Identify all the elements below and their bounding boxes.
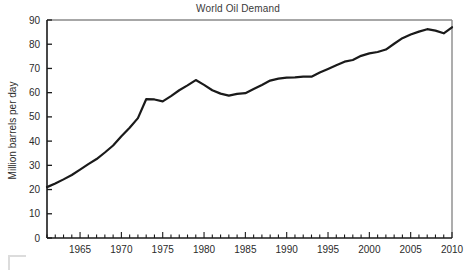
chart-container: World Oil Demand Million barrels per day… — [0, 0, 476, 274]
data-series — [47, 27, 452, 187]
y-tick-label: 60 — [29, 87, 41, 98]
x-tick-label: 1985 — [234, 244, 257, 255]
x-tick-label: 1970 — [110, 244, 133, 255]
y-tick-label: 90 — [29, 15, 41, 26]
y-tick-label: 40 — [29, 136, 41, 147]
y-tick-label: 70 — [29, 63, 41, 74]
x-tick-label: 1990 — [276, 244, 299, 255]
x-tick-label: 2000 — [358, 244, 381, 255]
x-tick-label: 1975 — [152, 244, 175, 255]
x-tick-label: 1995 — [317, 244, 340, 255]
x-axis-ticks: 1965197019751980198519901995200020052010 — [47, 232, 464, 255]
y-tick-label: 50 — [29, 111, 41, 122]
y-tick-label: 80 — [29, 39, 41, 50]
x-tick-label: 1980 — [193, 244, 216, 255]
x-tick-label: 2010 — [441, 244, 464, 255]
corner-mark-icon — [8, 255, 26, 270]
x-tick-label: 1965 — [69, 244, 92, 255]
series-line — [47, 27, 452, 187]
x-tick-label: 2005 — [400, 244, 423, 255]
y-axis-ticks: 0102030405060708090 — [29, 15, 52, 244]
plot-frame — [47, 20, 452, 238]
y-tick-label: 10 — [29, 208, 41, 219]
y-tick-label: 0 — [34, 233, 40, 244]
y-tick-label: 30 — [29, 160, 41, 171]
plot-area: 0102030405060708090 19651970197519801985… — [0, 0, 476, 274]
y-tick-label: 20 — [29, 184, 41, 195]
